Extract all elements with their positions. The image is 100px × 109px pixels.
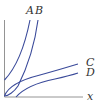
- curve-a: [5, 20, 31, 80]
- curve-d: [16, 73, 78, 97]
- label-b: B: [34, 4, 43, 17]
- x-axis-label: x: [87, 90, 94, 103]
- curve-b: [5, 20, 39, 96]
- diagram-canvas: A B C D x: [0, 0, 100, 109]
- label-a: A: [25, 4, 34, 17]
- curve-c: [5, 64, 79, 96]
- label-d: D: [85, 66, 95, 79]
